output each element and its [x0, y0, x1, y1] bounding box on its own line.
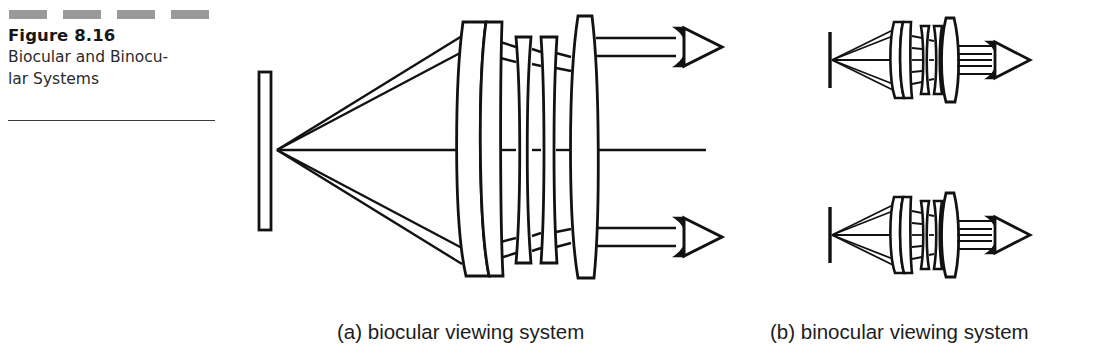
ray-bundle-lower — [277, 150, 462, 264]
display-screen — [259, 72, 271, 230]
eyepiece-lens — [942, 18, 959, 102]
ray-bundle-exit — [957, 46, 992, 74]
panel-b-binocular-system — [830, 18, 1030, 277]
ray-segment-field-internal — [929, 40, 934, 80]
eyepiece-lens — [942, 193, 959, 277]
optical-diagram: (a) biocular viewing system (b) binocula… — [0, 0, 1108, 363]
objective-lens-element-2 — [900, 22, 912, 98]
ray-segment-field-to-eyepiece-upper — [556, 53, 571, 71]
field-lens-element-2 — [541, 37, 557, 263]
ray-segment-field-internal — [929, 215, 934, 255]
eye — [988, 217, 1030, 253]
ray-bundle-exit-upper — [596, 38, 676, 56]
eye-globe — [684, 218, 722, 256]
ray-bundle-exit-lower — [596, 228, 676, 246]
eye-lower — [676, 218, 722, 256]
field-lens-element-1 — [516, 37, 531, 263]
subcaption-b: (b) binocular viewing system — [770, 320, 1029, 344]
binocular-channel-lower — [830, 193, 1030, 277]
ray-bundle-exit — [957, 221, 992, 249]
ray-segment-internal — [912, 211, 922, 259]
ray-bundle — [832, 205, 893, 265]
ray-segment-field-internal-upper — [532, 49, 541, 66]
eye — [988, 42, 1030, 78]
eyepiece-lens — [571, 16, 599, 278]
field-lens-element-1 — [921, 201, 929, 269]
binocular-channel-upper — [830, 18, 1030, 102]
ray-segment-field-internal-lower — [532, 233, 541, 251]
optics-svg-canvas — [0, 0, 1108, 363]
panel-a-biocular-system — [259, 16, 722, 278]
eye-upper — [676, 28, 722, 66]
objective-lens-element-2 — [480, 22, 503, 276]
objective-lens-element-2 — [900, 197, 912, 273]
ray-segment-field-to-eyepiece-lower — [556, 229, 571, 247]
eye-globe — [995, 42, 1030, 78]
ray-bundle — [832, 30, 893, 90]
subcaption-a: (a) biocular viewing system — [337, 320, 584, 344]
ray-bundle-upper — [277, 36, 462, 150]
ray-segment-internal — [912, 36, 922, 84]
field-lens-element-1 — [921, 26, 929, 94]
eye-globe — [684, 28, 722, 66]
eye-globe — [995, 217, 1030, 253]
